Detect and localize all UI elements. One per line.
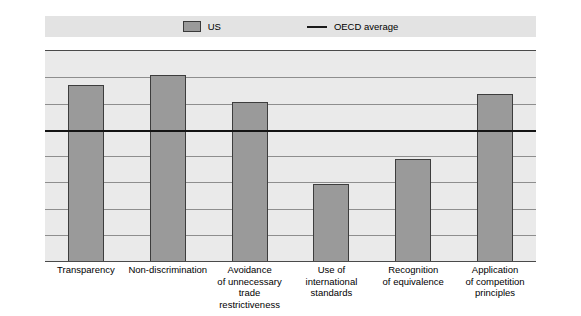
legend-label-oecd-average: OECD average: [334, 21, 398, 32]
x-category-label-line: Avoidance: [210, 264, 290, 276]
x-category-label: Non-discrimination: [127, 264, 209, 310]
bar-slot: [372, 51, 454, 261]
x-category-label-line: Non-discrimination: [128, 264, 208, 276]
legend-item-oecd-average: OECD average: [307, 21, 398, 32]
x-category-label: Applicationof competitionprinciples: [454, 264, 536, 310]
bar[interactable]: [313, 184, 349, 261]
x-category-label: Recognitionof equivalence: [372, 264, 454, 310]
bar[interactable]: [477, 94, 513, 261]
bar-slot: [454, 51, 536, 261]
bar-series-us: [45, 51, 536, 261]
bar[interactable]: [150, 75, 186, 261]
bar[interactable]: [232, 102, 268, 261]
x-category-label: Transparency: [45, 264, 127, 310]
bar-slot: [209, 51, 291, 261]
x-category-label-line: of equivalence: [373, 276, 453, 288]
bar[interactable]: [395, 159, 431, 261]
x-category-label-line: of competition: [455, 276, 535, 288]
bar-chart: US OECD average 020406080100120140160 02…: [0, 0, 581, 316]
legend-item-us: US: [183, 21, 221, 32]
x-axis-category-labels: TransparencyNon-discriminationAvoidanceo…: [45, 264, 536, 310]
bar-slot: [45, 51, 127, 261]
legend-bar-swatch-icon: [183, 21, 201, 32]
x-category-label-line: Use of international: [291, 264, 371, 287]
x-category-label-line: Application: [455, 264, 535, 276]
bar[interactable]: [68, 85, 104, 261]
plot-area: 020406080100120140160 020406080100120140…: [45, 50, 536, 262]
x-category-label-line: trade restrictiveness: [210, 287, 290, 310]
x-category-label: Avoidanceof unnecessarytrade restrictive…: [209, 264, 291, 310]
x-category-label-line: of unnecessary: [210, 276, 290, 288]
x-category-label-line: Recognition: [373, 264, 453, 276]
x-category-label: Use of internationalstandards: [290, 264, 372, 310]
x-category-label-line: standards: [291, 287, 371, 299]
x-category-label-line: principles: [455, 287, 535, 299]
x-category-label-line: Transparency: [46, 264, 126, 276]
oecd-average-line: [45, 130, 536, 132]
legend-label-us: US: [208, 21, 221, 32]
bar-slot: [290, 51, 372, 261]
bar-slot: [127, 51, 209, 261]
legend-line-swatch-icon: [307, 26, 327, 28]
chart-legend: US OECD average: [45, 16, 536, 37]
